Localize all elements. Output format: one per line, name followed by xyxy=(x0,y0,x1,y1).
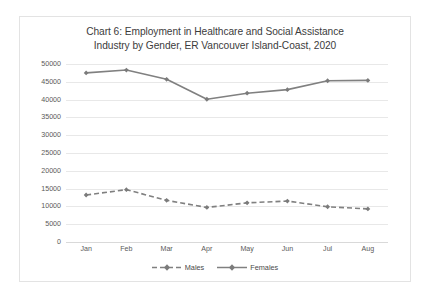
x-axis-tick-label-aug: Aug xyxy=(362,245,375,253)
chart-title: Chart 6: Employment in Healthcare and So… xyxy=(20,25,410,53)
data-point-males-feb[interactable] xyxy=(124,187,129,192)
y-axis-tick-label: 35000 xyxy=(41,113,61,121)
chart-series-canvas xyxy=(66,64,388,242)
legend-label-males: Males xyxy=(185,263,204,272)
legend-label-females: Females xyxy=(250,263,278,272)
chart-title-line-1: Chart 6: Employment in Healthcare and So… xyxy=(20,25,410,39)
y-axis-tick-label: 25000 xyxy=(41,149,61,157)
data-point-males-jan[interactable] xyxy=(84,193,89,198)
legend-swatch-females-icon xyxy=(217,263,247,272)
data-point-males-jun[interactable] xyxy=(285,199,290,204)
legend-item-males[interactable]: Males xyxy=(152,263,204,272)
series-line-males xyxy=(86,190,368,209)
legend-swatch-males-icon xyxy=(152,263,182,272)
data-point-males-aug[interactable] xyxy=(365,206,370,211)
x-axis-tick-label-jun: Jun xyxy=(282,245,293,253)
x-axis-labels: JanFebMarAprMayJunJulAug xyxy=(66,245,388,259)
x-axis-tick-label-jul: Jul xyxy=(323,245,332,253)
data-point-females-aug[interactable] xyxy=(365,78,370,83)
x-axis-tick-label-may: May xyxy=(240,245,253,253)
data-point-females-jul[interactable] xyxy=(325,78,330,83)
data-point-males-mar[interactable] xyxy=(164,198,169,203)
y-axis-tick-label: 40000 xyxy=(41,96,61,104)
x-axis-tick-label-apr: Apr xyxy=(201,245,212,253)
data-point-females-jan[interactable] xyxy=(84,71,89,76)
y-axis-tick-label: 15000 xyxy=(41,185,61,193)
x-axis-tick-label-feb: Feb xyxy=(120,245,132,253)
data-point-males-apr[interactable] xyxy=(204,205,209,210)
chart-title-line-2: Industry by Gender, ER Vancouver Island-… xyxy=(20,39,410,53)
x-axis-tick-label-jan: Jan xyxy=(80,245,91,253)
data-point-females-feb[interactable] xyxy=(124,68,129,73)
y-axis-tick-label: 50000 xyxy=(41,60,61,68)
gridline-0: 0 xyxy=(66,242,388,243)
chart-card: Chart 6: Employment in Healthcare and So… xyxy=(19,16,411,282)
y-axis-tick-label: 20000 xyxy=(41,167,61,175)
chart-legend: Males Females xyxy=(20,263,410,272)
data-point-females-jun[interactable] xyxy=(285,87,290,92)
y-axis-tick-label: 10000 xyxy=(41,202,61,210)
data-point-males-may[interactable] xyxy=(245,200,250,205)
y-axis-tick-label: 30000 xyxy=(41,131,61,139)
y-axis-tick-label: 5000 xyxy=(45,220,61,228)
y-axis-tick-label: 45000 xyxy=(41,78,61,86)
legend-item-females[interactable]: Females xyxy=(217,263,278,272)
data-point-females-may[interactable] xyxy=(245,91,250,96)
data-point-males-jul[interactable] xyxy=(325,204,330,209)
series-line-females xyxy=(86,70,368,99)
y-axis-tick-label: 0 xyxy=(57,238,61,246)
x-axis-tick-label-mar: Mar xyxy=(161,245,173,253)
plot-area: 0500010000150002000025000300003500040000… xyxy=(66,64,388,242)
